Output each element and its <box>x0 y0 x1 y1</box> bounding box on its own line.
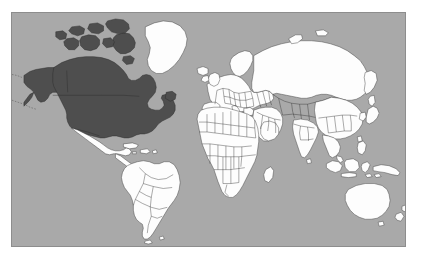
world-map-svg[interactable] <box>12 13 405 246</box>
region-jamaica[interactable] <box>132 152 136 154</box>
region-puerto-rico[interactable] <box>152 150 157 154</box>
region-falkland-islands[interactable] <box>159 236 164 240</box>
region-java[interactable] <box>341 173 356 178</box>
region-tasmania[interactable] <box>378 221 384 226</box>
region-taiwan[interactable] <box>357 136 362 142</box>
region-sri-lanka[interactable] <box>307 159 312 164</box>
region-british-isles[interactable] <box>208 72 220 86</box>
map-figure <box>11 12 406 247</box>
